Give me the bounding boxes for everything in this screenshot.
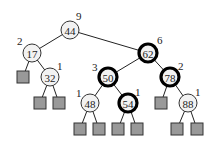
node-key: 48 [85,98,97,110]
node-height-label: 6 [157,34,163,46]
node-height-label: 2 [17,35,23,47]
tree-node: 481 [76,87,99,112]
node-height-label: 1 [76,87,82,99]
tree-node: 503 [92,61,117,86]
tree-node: 541 [119,86,141,112]
tree-node: 626 [139,34,163,62]
tree-edge [70,30,148,53]
tree-node: 172 [17,35,41,62]
node-height-label: 2 [178,60,184,72]
external-leaf-node [112,123,124,135]
external-leaf-node [34,97,46,109]
external-leaf-node [171,123,183,135]
tree-diagram: 449172626321503782481541881 [0,0,218,143]
node-key: 78 [165,72,177,84]
external-leaf-node [191,123,203,135]
tree-node: 449 [61,10,82,39]
node-key: 44 [65,25,77,37]
tree-canvas: 449172626321503782481541881 [0,0,218,143]
node-key: 50 [103,72,115,84]
node-key: 17 [27,48,39,60]
external-leaf-node [131,123,143,135]
node-key: 32 [45,72,56,84]
node-height-label: 9 [76,10,82,22]
tree-node: 321 [41,60,63,86]
node-key: 62 [143,48,154,60]
node-height-label: 1 [57,60,63,72]
external-leaf-node [74,123,86,135]
node-height-label: 1 [195,86,201,98]
tree-node: 881 [179,86,201,112]
external-leaf-node [93,123,105,135]
external-leaf-node [17,71,29,83]
node-key: 54 [123,98,135,110]
node-key: 88 [183,98,195,110]
node-height-label: 1 [135,86,141,98]
external-leaf-node [155,97,167,109]
node-height-label: 3 [92,61,98,73]
external-leaf-node [53,97,65,109]
tree-node: 782 [161,60,184,86]
